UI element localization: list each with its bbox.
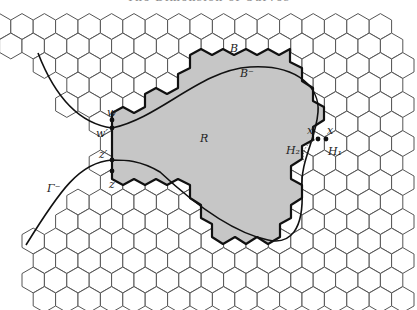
label-w: w (107, 106, 117, 119)
label-Gamma-minus: Γ⁻ (46, 182, 61, 195)
label-z: z (108, 178, 115, 191)
point-x (324, 137, 329, 142)
label-B-minus: B⁻ (239, 67, 254, 80)
label-R: R (199, 132, 208, 145)
hex-lattice-figure: B B⁻ R w w′ z′ z x x′ H₁ H₂ Γ⁻ (0, 0, 417, 310)
label-x-prime: x′ (307, 124, 316, 137)
point-z (110, 169, 115, 174)
label-x: x (327, 124, 334, 137)
label-B: B (229, 42, 238, 55)
label-w-prime: w′ (96, 127, 108, 140)
label-H1: H₁ (327, 145, 342, 158)
label-z-prime: z′ (98, 148, 108, 161)
point-z-prime (110, 158, 115, 163)
point-x-prime (316, 137, 321, 142)
point-w-prime (110, 126, 115, 131)
label-H2: H₂ (285, 144, 300, 157)
